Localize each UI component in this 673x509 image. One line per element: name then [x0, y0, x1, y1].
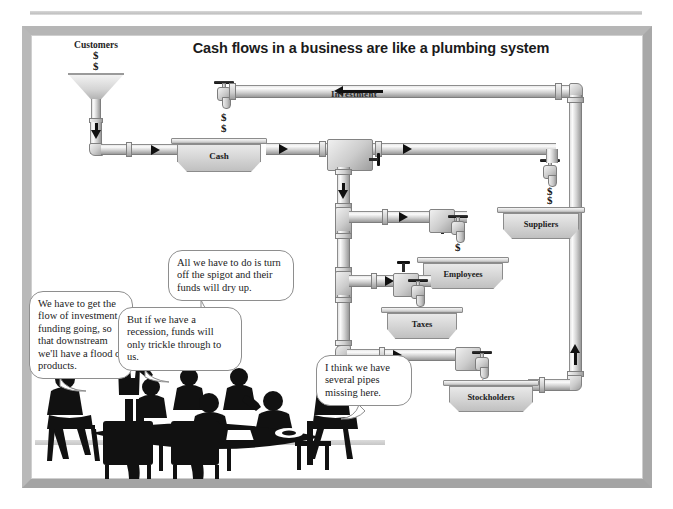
- tank-suppliers-label: Suppliers: [497, 219, 585, 229]
- bubble-recession-text: But if we have a recession, funds will o…: [127, 314, 221, 362]
- diagram-area: Cash flows in a business are like a plum…: [31, 35, 643, 479]
- bubble-missing-pipes: I think we have several pipes missing he…: [316, 355, 412, 406]
- arrow-right-employees: [399, 212, 408, 222]
- collar-investment-left: [229, 83, 236, 100]
- tank-suppliers: Suppliers: [497, 207, 585, 239]
- funnel: [68, 74, 124, 100]
- tank-taxes: Taxes: [381, 307, 463, 339]
- bubble-investment-flow-text: We have to get the flow of investment fu…: [38, 298, 124, 371]
- tank-cash: Cash: [171, 138, 267, 172]
- collar-employees-1: [382, 209, 388, 225]
- arrow-right-trunk-1: [279, 144, 288, 154]
- tank-stockholders: Stockholders: [443, 380, 539, 412]
- arrow-down-main: [338, 190, 348, 199]
- funnel-rim: [68, 73, 124, 75]
- dollar-investment-drip-2: $: [221, 124, 227, 133]
- collar-riser-top: [567, 97, 584, 103]
- dollar-employees: $: [455, 243, 461, 252]
- bubble-spigot: All we have to do is turn off the spigot…: [168, 250, 294, 301]
- investment-label: Investment: [331, 89, 377, 99]
- bubble-recession: But if we have a recession, funds will o…: [118, 307, 242, 371]
- dollar-customers-2: $: [93, 62, 99, 71]
- collar-inlet-cash: [126, 142, 132, 157]
- collar-stockholders-return: [539, 377, 545, 393]
- arrow-down-customers: [91, 130, 101, 139]
- dollar-customers-1: $: [93, 51, 99, 60]
- arrow-right-trunk-2: [403, 144, 412, 154]
- arrow-right-to-cash: [151, 145, 160, 155]
- arrow-up-riser-tail: [574, 351, 577, 365]
- dollar-suppliers-2: $: [547, 196, 553, 205]
- collar-down-5: [335, 297, 352, 303]
- tank-employees-lid: [417, 257, 509, 263]
- dollar-investment-drip-1: $: [221, 113, 227, 122]
- tee-main-body: [327, 139, 373, 171]
- tank-cash-lid: [171, 138, 267, 144]
- tank-stockholders-lid: [443, 380, 539, 386]
- top-rule-decoration: [30, 11, 642, 15]
- slide-canvas: Cash flows in a business are like a plum…: [0, 0, 673, 509]
- pipe-suppliers-drop: [546, 149, 558, 163]
- bubble-missing-pipes-tail: [339, 405, 379, 423]
- page-title: Cash flows in a business are like a plum…: [181, 40, 561, 56]
- bubble-missing-pipes-text: I think we have several pipes missing he…: [325, 362, 390, 398]
- tank-stockholders-label: Stockholders: [443, 392, 539, 402]
- arrow-up-riser: [570, 344, 580, 353]
- collar-investment-right: [555, 83, 562, 100]
- collar-down-3: [335, 233, 352, 239]
- tank-suppliers-lid: [497, 207, 585, 213]
- tank-taxes-label: Taxes: [381, 319, 463, 329]
- collar-down-1: [335, 169, 352, 175]
- tank-taxes-lid: [381, 307, 463, 313]
- bubble-recession-tail: [143, 370, 183, 386]
- collar-taxes-1: [371, 273, 377, 289]
- collar-trunk-1: [319, 141, 326, 157]
- bubble-spigot-text: All we have to do is turn off the spigot…: [177, 257, 281, 293]
- tank-cash-label: Cash: [171, 151, 267, 161]
- pipe-investment-horizontal: [229, 85, 575, 98]
- bubble-investment-flow-tail: [58, 378, 98, 396]
